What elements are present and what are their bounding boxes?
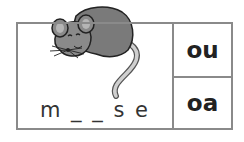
option-ou[interactable]: ou xyxy=(174,24,231,78)
phonics-card: m _ _ s e ou oa xyxy=(16,22,233,130)
options-panel: ou oa xyxy=(172,24,231,128)
word-with-blanks: m _ _ s e xyxy=(18,98,172,122)
option-oa[interactable]: oa xyxy=(174,78,231,128)
word-panel: m _ _ s e xyxy=(18,24,172,128)
